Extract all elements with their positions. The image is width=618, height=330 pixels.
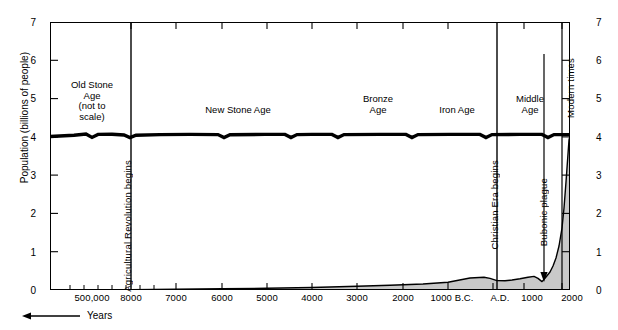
y-tick-label-2: 2 [30, 208, 36, 219]
era-label-modern-times: Modern times [565, 58, 576, 118]
x-tick-label-5000: 5000 [256, 292, 278, 303]
left-arrow-icon [22, 311, 82, 321]
y-tick-label-right-6: 6 [596, 55, 602, 66]
y-tick-label-0: 0 [30, 285, 36, 296]
annotation-agricultural-revolution-line1: Agricultural Revolution begins [122, 160, 133, 292]
y-tick-label-right-7: 7 [596, 17, 602, 28]
x-tick-label-500000: 500,000 [74, 292, 109, 303]
x-axis-title-text: Years [87, 310, 112, 321]
x-tick-label-7000: 7000 [165, 292, 187, 303]
annotation-bubonic-plague: Bubonic plague [538, 178, 549, 246]
y-tick-label-right-4: 4 [596, 132, 602, 143]
x-tick-label-ad: A.D. [491, 292, 510, 303]
population-growth-chart: Population (billions of people) 7 6 5 4 … [0, 0, 618, 330]
era-label-iron-age: Iron Age [439, 105, 474, 116]
bubonic-plague-pointer [540, 54, 547, 282]
x-tick-label-1000bc: 1000 B.C. [430, 292, 473, 303]
era-label-old-stone-age: Old Stone Age (not to scale) [71, 80, 113, 122]
y-tick-label-right-2: 2 [596, 208, 602, 219]
x-tick-label-1000ad: 1000 [521, 292, 543, 303]
y-tick-label-7: 7 [30, 17, 36, 28]
y-tick-label-right-3: 3 [596, 170, 602, 181]
era-label-new-stone-age: New Stone Age [205, 105, 271, 116]
y-tick-label-right-0: 0 [596, 285, 602, 296]
y-tick-label-right-1: 1 [596, 247, 602, 258]
x-tick-label-2000bc: 2000 [392, 292, 414, 303]
left-axis-ticks [50, 60, 58, 251]
era-label-bronze-age: Bronze Age [363, 94, 393, 115]
y-axis-title-text: Population (billions of people) [19, 52, 30, 183]
annotation-agricultural-revolution: Agricultural Revolution begins [122, 160, 133, 292]
x-tick-label-8000: 8000 [120, 292, 142, 303]
x-tick-label-2000ad: 2000 [561, 292, 583, 303]
x-axis-title: Years [22, 310, 112, 321]
annotation-christian-era: Christian Era begins [489, 160, 500, 250]
y-tick-label-right-5: 5 [596, 93, 602, 104]
y-tick-label-3: 3 [30, 170, 36, 181]
y-tick-label-5: 5 [30, 93, 36, 104]
x-tick-label-6000: 6000 [211, 292, 233, 303]
x-tick-label-3000: 3000 [346, 292, 368, 303]
era-label-middle-age: Middle Age [516, 94, 544, 115]
y-tick-label-1: 1 [30, 247, 36, 258]
x-tick-label-4000: 4000 [301, 292, 323, 303]
y-tick-label-4: 4 [30, 132, 36, 143]
y-axis-title: Population (billions of people) [8, 52, 22, 252]
axis-break-band [50, 134, 570, 138]
y-tick-label-6: 6 [30, 55, 36, 66]
